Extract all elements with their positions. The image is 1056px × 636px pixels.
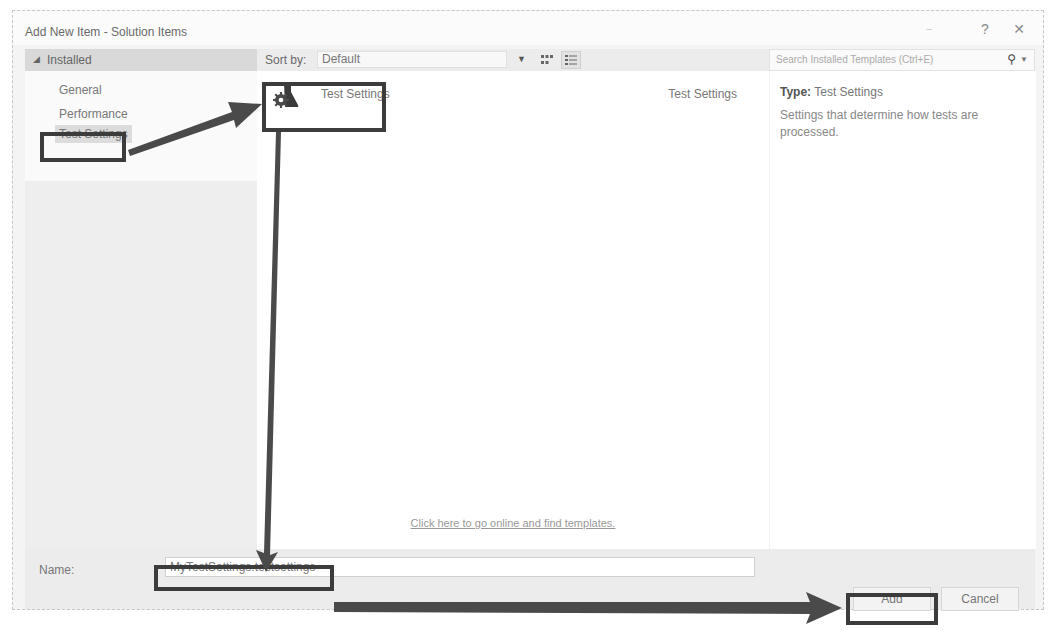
annotation-box-add-button bbox=[846, 593, 938, 625]
template-description: Settings that determine how tests are pr… bbox=[780, 107, 1020, 141]
tree-node-installed[interactable]: ◢ Installed bbox=[25, 49, 257, 71]
minimize-icon[interactable]: – bbox=[915, 19, 943, 39]
close-button[interactable]: ✕ bbox=[1005, 19, 1033, 39]
details-pane: Type: Test Settings Settings that determ… bbox=[769, 71, 1036, 549]
sort-by-label: Sort by: bbox=[265, 53, 306, 67]
template-type: Test Settings bbox=[668, 87, 737, 101]
grid-view-icon bbox=[537, 51, 557, 69]
online-templates-link[interactable]: Click here to go online and find templat… bbox=[257, 517, 769, 529]
dialog-title: Add New Item - Solution Items bbox=[25, 25, 187, 39]
search-templates-input[interactable]: Search Installed Templates (Ctrl+E) ⚲ ▼ bbox=[769, 49, 1035, 71]
sort-toolbar: Sort by: Default ▼ bbox=[257, 49, 769, 71]
type-line: Type: Test Settings bbox=[780, 85, 883, 99]
annotation-box-tree-item bbox=[40, 132, 126, 162]
annotation-box-name-input bbox=[154, 565, 334, 591]
name-label: Name: bbox=[39, 563, 74, 577]
search-icon[interactable]: ⚲ bbox=[1007, 52, 1016, 66]
annotation-box-template bbox=[262, 82, 386, 132]
cancel-button[interactable]: Cancel bbox=[941, 587, 1019, 611]
category-list: General Performance Test Settings bbox=[25, 71, 257, 181]
grid-view-button[interactable] bbox=[537, 51, 557, 69]
triangle-expanded-icon[interactable]: ◢ bbox=[33, 54, 40, 64]
title-bar: Add New Item - Solution Items – ? ✕ bbox=[13, 11, 1043, 45]
list-view-button[interactable] bbox=[561, 51, 581, 69]
chevron-down-icon: ▼ bbox=[517, 52, 526, 67]
add-new-item-dialog: Add New Item - Solution Items – ? ✕ ◢ In… bbox=[12, 10, 1044, 610]
sort-by-value: Default bbox=[322, 52, 360, 66]
type-value: Test Settings bbox=[814, 85, 883, 99]
template-list: Test Settings Test Settings Click here t… bbox=[257, 71, 769, 549]
chevron-down-icon[interactable]: ▼ bbox=[1020, 55, 1028, 64]
search-placeholder: Search Installed Templates (Ctrl+E) bbox=[776, 54, 933, 65]
tree-item-general[interactable]: General bbox=[59, 83, 102, 97]
list-view-icon bbox=[562, 52, 580, 68]
type-label: Type: bbox=[780, 85, 811, 99]
category-tree: ◢ Installed General Performance Test Set… bbox=[25, 49, 257, 549]
sort-by-dropdown[interactable]: Default ▼ bbox=[317, 51, 507, 68]
help-button[interactable]: ? bbox=[971, 19, 999, 39]
tree-item-performance[interactable]: Performance bbox=[59, 107, 128, 121]
tree-node-installed-label: Installed bbox=[47, 53, 92, 67]
